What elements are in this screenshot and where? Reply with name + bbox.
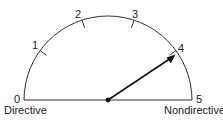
gauge-outline [24, 16, 192, 100]
tick-label-4: 4 [178, 42, 184, 54]
gauge-pointer [108, 58, 171, 100]
pivot-dot [106, 98, 111, 103]
gauge-ticks [40, 20, 176, 55]
tick-label-1: 1 [32, 39, 38, 51]
right-label-nondirective: Nondirective [164, 104, 223, 116]
directive-gauge: 0 1 2 3 4 5 Directive Nondirective [0, 0, 223, 123]
tick-label-2: 2 [75, 8, 81, 20]
tick-label-3: 3 [132, 8, 138, 20]
left-label-directive: Directive [4, 104, 47, 116]
arrowhead-icon [167, 55, 176, 64]
